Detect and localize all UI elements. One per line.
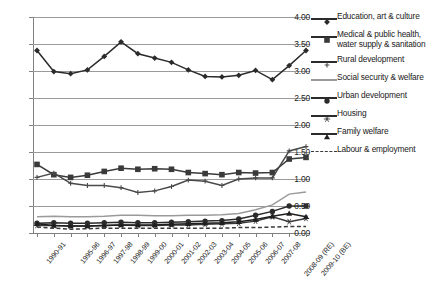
legend-item[interactable]: Urban development [311, 91, 438, 103]
plot-area: 0.000.501.001.502.002.503.003.504.00 199… [0, 0, 310, 301]
data-point-marker [202, 74, 208, 80]
data-point-marker [135, 190, 140, 195]
data-point-marker [85, 183, 90, 188]
data-point-marker [102, 183, 107, 188]
series-1 [34, 39, 309, 83]
data-point-marker [68, 71, 74, 77]
data-point-marker [286, 156, 292, 162]
series-layer [33, 17, 310, 233]
x-tick-mark [205, 233, 206, 237]
series-7 [34, 211, 309, 229]
legend-item[interactable]: Housing [311, 109, 438, 121]
legend-label: Housing [337, 109, 366, 119]
chart-legend: Education, art & cultureMedical & public… [311, 12, 438, 163]
data-point-marker [236, 170, 242, 176]
data-point-marker [152, 55, 158, 61]
data-point-marker [101, 169, 107, 175]
data-point-marker [253, 68, 259, 74]
series-2 [34, 155, 309, 181]
data-point-marker [304, 144, 309, 149]
x-tick-mark [54, 233, 55, 237]
legend-label: Family welfare [337, 127, 388, 137]
data-point-marker [169, 59, 175, 65]
data-point-marker [118, 165, 124, 171]
series-line [37, 227, 306, 230]
legend-item[interactable]: Education, art & culture [311, 12, 438, 24]
x-tick-mark [138, 233, 139, 237]
data-point-marker [152, 188, 157, 193]
legend-label: Labour & employment [337, 145, 415, 155]
legend-item[interactable]: Family welfare [311, 127, 438, 139]
data-point-marker [135, 166, 141, 172]
data-point-marker [220, 183, 225, 188]
legend-marker-icon [311, 56, 337, 67]
x-tick-mark [306, 233, 307, 237]
data-point-marker [35, 175, 40, 180]
x-tick-mark [188, 233, 189, 237]
legend-marker-icon [311, 146, 337, 157]
data-point-marker [34, 162, 40, 168]
data-point-marker [303, 155, 309, 161]
x-tick-mark [155, 233, 156, 237]
series-8 [37, 227, 306, 230]
legend-item[interactable]: Rural development [311, 55, 438, 67]
line-chart: 0.000.501.001.502.002.503.003.504.00 199… [0, 0, 438, 301]
x-tick-mark [272, 233, 273, 237]
legend-label: Education, art & culture [337, 12, 420, 22]
x-tick-label: 1990-91 [44, 240, 67, 265]
data-point-marker [236, 72, 242, 78]
legend-marker-icon [311, 110, 337, 121]
legend-label: Medical & public health, water supply & … [337, 30, 438, 49]
data-point-marker [236, 177, 241, 182]
data-point-marker [286, 219, 292, 225]
x-tick-mark [256, 233, 257, 237]
data-point-marker [85, 172, 91, 178]
x-tick-mark [172, 233, 173, 237]
data-point-marker [68, 175, 74, 181]
legend-label: Social security & welfare [337, 73, 424, 83]
data-point-marker [253, 170, 259, 176]
y-tick-mark [29, 233, 33, 234]
legend-marker-icon [311, 31, 337, 42]
legend-label: Urban development [337, 91, 407, 101]
data-point-marker [303, 203, 308, 208]
data-point-marker [203, 179, 208, 184]
legend-marker-icon [311, 74, 337, 85]
legend-item[interactable]: Labour & employment [311, 145, 438, 157]
data-point-marker [253, 176, 258, 181]
legend-marker-icon [311, 13, 337, 24]
x-tick-mark [239, 233, 240, 237]
legend-marker-icon [311, 128, 337, 139]
legend-item[interactable]: Medical & public health, water supply & … [311, 30, 438, 49]
data-point-marker [186, 178, 191, 183]
legend-label: Rural development [337, 55, 404, 65]
x-tick-mark [289, 233, 290, 237]
data-point-marker [169, 184, 174, 189]
data-point-marker [152, 166, 158, 172]
x-tick-mark [121, 233, 122, 237]
data-point-marker [202, 171, 208, 177]
data-point-marker [286, 203, 291, 208]
data-point-marker [219, 172, 225, 178]
x-tick-mark [104, 233, 105, 237]
legend-item[interactable]: Social security & welfare [311, 73, 438, 85]
data-point-marker [119, 185, 124, 190]
data-point-marker [186, 170, 192, 176]
data-point-marker [185, 67, 191, 73]
x-tick-mark [222, 233, 223, 237]
data-point-marker [169, 166, 175, 172]
x-tick-mark [71, 233, 72, 237]
x-tick-mark [87, 233, 88, 237]
data-point-marker [219, 74, 225, 80]
x-tick-mark [37, 233, 38, 237]
legend-marker-icon [311, 92, 337, 103]
